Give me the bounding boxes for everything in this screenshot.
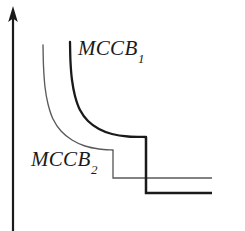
mccb1-curve-label: MCCB1 bbox=[78, 38, 144, 62]
mccb2-label-subscript: 2 bbox=[91, 162, 98, 177]
tripping-curve-figure: MCCB1 MCCB2 bbox=[0, 0, 245, 231]
mccb1-instantaneous-step bbox=[146, 137, 212, 193]
mccb2-instantaneous-step bbox=[113, 150, 212, 178]
mccb1-label-subscript: 1 bbox=[138, 51, 145, 66]
mccb2-label-base: MCCB bbox=[31, 147, 91, 171]
mccb1-label-base: MCCB bbox=[78, 36, 138, 60]
mccb2-curve-label: MCCB2 bbox=[31, 149, 97, 173]
vertical-axis-group bbox=[8, 6, 18, 231]
curves-canvas bbox=[0, 0, 245, 231]
